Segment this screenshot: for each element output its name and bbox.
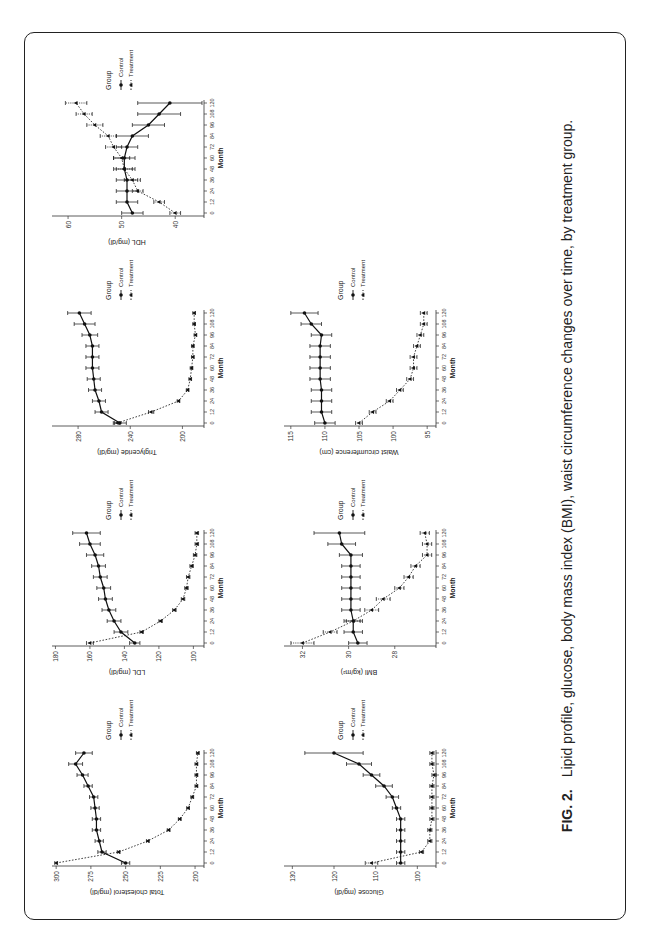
- svg-text:Treatment: Treatment: [128, 700, 134, 727]
- svg-text:48: 48: [209, 166, 215, 172]
- chart-svg: 10012014016018001224364860728496108120Mo…: [42, 460, 242, 680]
- chart-svg: 28303201224364860728496108120MonthBMI (k…: [274, 460, 474, 680]
- svg-text:72: 72: [441, 354, 447, 360]
- svg-text:12: 12: [209, 199, 215, 205]
- svg-text:40: 40: [172, 221, 179, 229]
- svg-text:120: 120: [209, 308, 215, 317]
- svg-text:108: 108: [441, 319, 447, 328]
- svg-text:0: 0: [209, 211, 215, 214]
- svg-text:108: 108: [441, 759, 447, 768]
- svg-text:240: 240: [127, 431, 134, 442]
- svg-text:60: 60: [65, 221, 72, 229]
- chart-svg: 20022525027530001224364860728496108120Mo…: [42, 680, 242, 900]
- svg-text:108: 108: [441, 539, 447, 548]
- svg-text:72: 72: [209, 144, 215, 150]
- svg-text:24: 24: [209, 618, 215, 624]
- svg-text:Treatment: Treatment: [128, 480, 134, 507]
- panel-waist-circumference: 9510010511011501224364860728496108120Mon…: [274, 240, 474, 460]
- svg-text:120: 120: [441, 528, 447, 537]
- panel-ldl: 10012014016018001224364860728496108120Mo…: [42, 460, 242, 680]
- svg-text:36: 36: [209, 607, 215, 613]
- svg-text:24: 24: [441, 618, 447, 624]
- svg-text:108: 108: [209, 759, 215, 768]
- svg-text:LDL (mg/dl): LDL (mg/dl): [109, 668, 145, 676]
- panel-total-cholesterol: 20022525027530001224364860728496108120Mo…: [42, 680, 242, 900]
- svg-text:48: 48: [441, 596, 447, 602]
- svg-text:50: 50: [118, 221, 125, 229]
- svg-text:110: 110: [321, 431, 328, 442]
- svg-text:Group: Group: [105, 280, 113, 300]
- figure-page: 20022525027530001224364860728496108120Mo…: [24, 30, 628, 920]
- svg-text:120: 120: [155, 651, 162, 662]
- svg-text:30: 30: [345, 651, 352, 659]
- svg-text:32: 32: [299, 651, 306, 659]
- svg-text:48: 48: [209, 376, 215, 382]
- svg-text:Treatment: Treatment: [128, 50, 134, 77]
- svg-text:200: 200: [192, 871, 199, 882]
- svg-text:60: 60: [441, 585, 447, 591]
- svg-text:36: 36: [441, 827, 447, 833]
- svg-text:72: 72: [209, 794, 215, 800]
- svg-text:60: 60: [441, 805, 447, 811]
- svg-text:48: 48: [441, 376, 447, 382]
- svg-text:12: 12: [441, 409, 447, 415]
- svg-text:84: 84: [209, 133, 215, 139]
- svg-text:72: 72: [209, 354, 215, 360]
- svg-text:12: 12: [441, 849, 447, 855]
- svg-text:24: 24: [441, 398, 447, 404]
- svg-text:Control: Control: [118, 58, 124, 77]
- svg-text:Month: Month: [449, 798, 456, 819]
- chart-svg: 9510010511011501224364860728496108120Mon…: [274, 240, 474, 460]
- svg-text:0: 0: [209, 641, 215, 644]
- svg-text:Control: Control: [350, 708, 356, 727]
- svg-text:60: 60: [209, 155, 215, 161]
- svg-text:120: 120: [209, 528, 215, 537]
- svg-text:95: 95: [424, 431, 431, 439]
- svg-text:Group: Group: [337, 500, 345, 520]
- svg-text:36: 36: [209, 387, 215, 393]
- svg-text:36: 36: [209, 827, 215, 833]
- svg-text:84: 84: [441, 783, 447, 789]
- svg-text:105: 105: [356, 431, 363, 442]
- svg-text:12: 12: [209, 849, 215, 855]
- svg-text:0: 0: [441, 641, 447, 644]
- svg-text:0: 0: [441, 421, 447, 424]
- svg-text:60: 60: [209, 585, 215, 591]
- svg-text:120: 120: [209, 98, 215, 107]
- svg-text:108: 108: [209, 539, 215, 548]
- svg-text:Month: Month: [217, 578, 224, 599]
- svg-text:36: 36: [441, 387, 447, 393]
- svg-text:Treatment: Treatment: [128, 260, 134, 287]
- svg-text:BMI (kg/m²): BMI (kg/m²): [341, 668, 378, 676]
- svg-text:100: 100: [190, 651, 197, 662]
- svg-text:Total cholesterol (mg/dl): Total cholesterol (mg/dl): [90, 888, 164, 896]
- figure-caption: FIG. 2.Lipid profile, glucose, body mass…: [559, 32, 575, 920]
- svg-text:84: 84: [209, 783, 215, 789]
- svg-text:96: 96: [209, 122, 215, 128]
- svg-text:48: 48: [209, 596, 215, 602]
- svg-text:120: 120: [209, 748, 215, 757]
- svg-text:120: 120: [441, 748, 447, 757]
- svg-text:0: 0: [209, 421, 215, 424]
- svg-text:Treatment: Treatment: [360, 480, 366, 507]
- panel-triglyceride: 20024028001224364860728496108120MonthTri…: [42, 240, 242, 460]
- svg-text:Control: Control: [118, 268, 124, 287]
- svg-text:250: 250: [122, 871, 129, 882]
- chart-svg: 20024028001224364860728496108120MonthTri…: [42, 240, 242, 460]
- svg-text:72: 72: [441, 574, 447, 580]
- svg-text:0: 0: [441, 861, 447, 864]
- svg-text:115: 115: [287, 431, 294, 442]
- svg-text:100: 100: [390, 431, 397, 442]
- svg-text:Month: Month: [217, 148, 224, 169]
- svg-text:Control: Control: [118, 488, 124, 507]
- svg-text:Month: Month: [449, 358, 456, 379]
- svg-text:Group: Group: [337, 280, 345, 300]
- panel-hdl: 40506001224364860728496108120MonthHDL (m…: [42, 30, 242, 250]
- svg-text:Month: Month: [217, 798, 224, 819]
- svg-text:Treatment: Treatment: [360, 260, 366, 287]
- svg-text:96: 96: [441, 772, 447, 778]
- figure-label: FIG. 2.: [559, 789, 575, 832]
- svg-text:72: 72: [441, 794, 447, 800]
- figure-caption-text: Lipid profile, glucose, body mass index …: [559, 120, 575, 778]
- svg-text:130: 130: [289, 871, 296, 882]
